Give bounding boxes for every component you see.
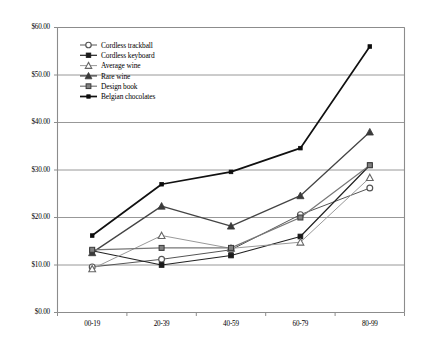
legend-item-rare-wine: Rare wine xyxy=(80,72,131,81)
y-axis-tick-label: $30.00 xyxy=(4,166,50,174)
legend-label: Average wine xyxy=(101,61,141,70)
x-axis-tick-label: 60-79 xyxy=(270,320,330,328)
legend-item-average-wine: Average wine xyxy=(80,61,141,70)
y-axis-tick-label: $40.00 xyxy=(4,118,50,126)
legend-label: Rare wine xyxy=(101,72,131,81)
legend-item-cordless-keyboard: Cordless keyboard xyxy=(80,51,155,60)
y-axis-tick-label: $20.00 xyxy=(4,213,50,221)
legend-item-belgian-chocolates: Belgian chocolates xyxy=(80,92,155,101)
series-design-book xyxy=(90,163,373,253)
y-axis-tick-label: $50.00 xyxy=(4,71,50,79)
legend-label: Belgian chocolates xyxy=(101,92,155,101)
plot-area: Cordless trackballCordless keyboardAvera… xyxy=(0,0,429,350)
legend-label: Design book xyxy=(101,82,138,91)
legend-item-design-book: Design book xyxy=(80,82,138,91)
legend-label: Cordless trackball xyxy=(101,41,153,50)
chart-legend: Cordless trackballCordless keyboardAvera… xyxy=(80,41,155,101)
y-axis-tick-label: $10.00 xyxy=(4,261,50,269)
legend-item-cordless-trackball: Cordless trackball xyxy=(80,41,153,50)
y-axis-tick-label: $0.00 xyxy=(4,308,50,316)
x-axis-tick-label: 20-39 xyxy=(132,320,192,328)
y-axis-tick-label: $60.00 xyxy=(4,23,50,31)
series-belgian-chocolates xyxy=(90,45,371,238)
legend-label: Cordless keyboard xyxy=(101,51,155,60)
x-axis-tick-label: 00-19 xyxy=(62,320,122,328)
series-rare-wine xyxy=(89,128,374,255)
line-chart: Cordless trackballCordless keyboardAvera… xyxy=(0,0,429,350)
x-axis-tick-label: 40-59 xyxy=(201,320,261,328)
x-axis-tick-label: 80-99 xyxy=(340,320,400,328)
data-series-layer xyxy=(89,45,374,272)
